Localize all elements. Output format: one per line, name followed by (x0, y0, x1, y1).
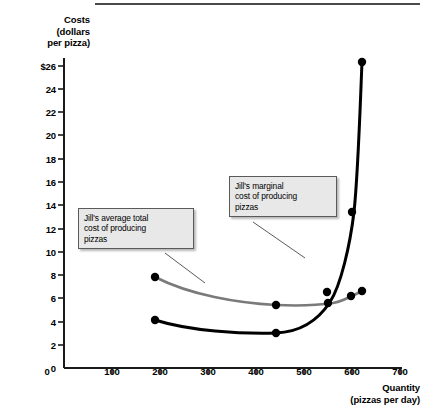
atc-point-550 (324, 299, 332, 307)
atc-point-600 (347, 292, 355, 300)
mc-point-550 (323, 288, 331, 296)
atc-point-625 (358, 287, 366, 295)
callout-mc-line-3: pizzas (235, 202, 331, 212)
callout-atc-line-2: cost of producing (84, 223, 188, 233)
callout-atc-line-3: pizzas (84, 234, 188, 244)
mc-point-600 (348, 208, 356, 216)
mc-point-450 (272, 329, 280, 337)
cost-curves-chart-figure: Costs (dollars per pizza) Quantity (pizz… (0, 0, 428, 417)
chart-plot-area (0, 0, 428, 417)
atc-point-200 (151, 273, 159, 281)
callout-mc-line-1: Jill's marginal (235, 181, 331, 191)
atc-point-450 (272, 301, 280, 309)
mc-point-200 (151, 316, 159, 324)
callout-marginal-cost: Jill's marginal cost of producing pizzas (229, 176, 337, 217)
atc-callout-leader-line (165, 253, 205, 283)
callout-atc-line-1: Jill's average total (84, 213, 188, 223)
mc-callout-leader-line (253, 222, 305, 258)
mc-point-625 (358, 58, 366, 66)
callout-mc-line-2: cost of producing (235, 191, 331, 201)
callout-average-total-cost: Jill's average total cost of producing p… (78, 208, 194, 249)
